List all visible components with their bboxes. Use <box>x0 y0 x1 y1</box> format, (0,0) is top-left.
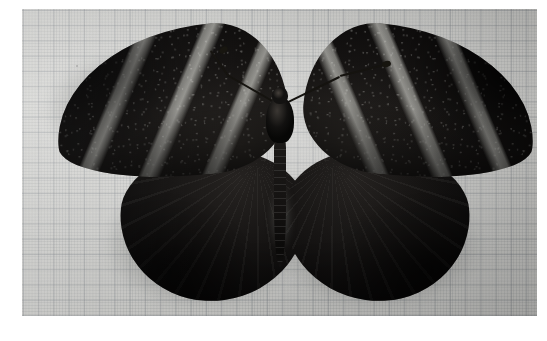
specimen-photograph <box>22 9 537 316</box>
butterfly-specimen <box>22 9 537 316</box>
head <box>272 87 288 104</box>
abdomen <box>274 135 286 267</box>
image-canvas <box>0 0 547 341</box>
